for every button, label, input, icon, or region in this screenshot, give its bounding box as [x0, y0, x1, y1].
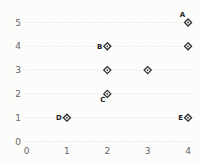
scatter-chart-figure: 01234501234ABCDE	[0, 0, 200, 162]
data-point-center-dot	[106, 69, 108, 71]
data-point-center-dot	[147, 69, 149, 71]
y-tick-label-4: 4	[15, 41, 21, 51]
y-tick-label-0: 0	[15, 137, 21, 147]
y-tick-label-1: 1	[15, 113, 21, 123]
y-tick-label-3: 3	[15, 65, 21, 75]
data-point-label-E: E	[178, 114, 183, 122]
data-point-center-dot	[187, 45, 189, 47]
x-tick-label-2: 2	[104, 146, 110, 156]
scatter-plot: 01234501234ABCDE	[0, 0, 200, 162]
data-point-center-dot-B	[106, 45, 108, 47]
data-point-label-D: D	[56, 114, 62, 122]
x-tick-label-0: 0	[24, 146, 30, 156]
data-point-center-dot-A	[187, 22, 189, 24]
x-tick-label-3: 3	[145, 146, 151, 156]
data-point-center-dot-E	[187, 117, 189, 119]
y-tick-label-2: 2	[15, 89, 21, 99]
data-point-label-B: B	[97, 43, 102, 51]
data-point-center-dot-C	[106, 93, 108, 95]
x-tick-label-1: 1	[64, 146, 70, 156]
data-point-center-dot-D	[66, 117, 68, 119]
y-tick-label-5: 5	[15, 18, 21, 28]
data-point-label-C: C	[100, 96, 105, 104]
x-tick-label-4: 4	[185, 146, 191, 156]
data-point-label-A: A	[180, 11, 186, 19]
